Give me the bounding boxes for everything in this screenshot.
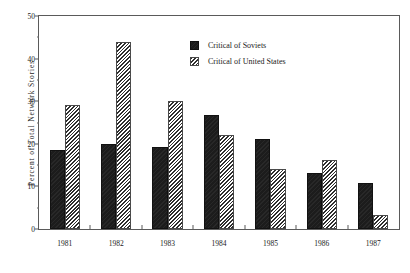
x-tick-mark: [296, 225, 297, 229]
x-tick-label-1987: 1987: [366, 239, 381, 248]
legend-label-united-states: Critical of United States: [208, 57, 286, 66]
bar-united-states-1982: [116, 42, 131, 229]
legend-label-soviets: Critical of Soviets: [208, 41, 266, 50]
legend-item-soviets: Critical of Soviets: [190, 37, 286, 53]
bar-united-states-1984: [219, 135, 234, 229]
y-tick-label: 0: [31, 225, 35, 234]
bar-soviets-1982: [101, 144, 116, 229]
legend-swatch-united-states-icon: [190, 57, 199, 66]
y-tick-major: [35, 186, 39, 187]
bar-soviets-1983: [152, 147, 167, 229]
y-axis-title: Percent of Total Network Stories: [27, 23, 36, 223]
bar-soviets-1984: [204, 115, 219, 229]
x-tick-mark: [141, 225, 142, 229]
y-tick-minor: [37, 37, 40, 38]
bar-chart: Percent of Total Network Stories 0102030…: [0, 0, 410, 273]
y-tick-major: [35, 58, 39, 59]
x-tick-label-1985: 1985: [263, 239, 278, 248]
y-tick-minor: [37, 165, 40, 166]
y-tick-minor: [37, 79, 40, 80]
y-tick-label: 50: [28, 12, 36, 21]
bar-soviets-1986: [307, 173, 322, 229]
x-tick-label-1981: 1981: [57, 239, 72, 248]
bar-soviets-1987: [358, 183, 373, 229]
bar-united-states-1983: [168, 101, 183, 229]
x-tick-label-1986: 1986: [314, 239, 329, 248]
x-tick-label-1982: 1982: [109, 239, 124, 248]
x-tick-label-1983: 1983: [160, 239, 175, 248]
y-tick-label: 40: [28, 54, 36, 63]
bar-united-states-1987: [373, 215, 388, 229]
x-tick-mark: [347, 225, 348, 229]
y-tick-label: 30: [28, 97, 36, 106]
legend-swatch-soviets-icon: [190, 41, 199, 50]
chart-legend: Critical of Soviets Critical of United S…: [190, 37, 286, 69]
y-tick-major: [35, 229, 39, 230]
x-tick-label-1984: 1984: [212, 239, 227, 248]
x-tick-mark: [244, 225, 245, 229]
legend-item-united-states: Critical of United States: [190, 53, 286, 69]
x-tick-mark: [193, 225, 194, 229]
y-tick-minor: [37, 207, 40, 208]
y-tick-major: [35, 101, 39, 102]
bar-united-states-1986: [322, 160, 337, 229]
y-tick-label: 20: [28, 139, 36, 148]
bar-united-states-1981: [65, 105, 80, 229]
bar-soviets-1981: [50, 150, 65, 229]
bar-united-states-1985: [270, 169, 285, 229]
y-tick-major: [35, 16, 39, 17]
y-tick-label: 10: [28, 182, 36, 191]
x-tick-mark: [90, 225, 91, 229]
y-tick-minor: [37, 122, 40, 123]
y-tick-major: [35, 143, 39, 144]
bar-soviets-1985: [255, 139, 270, 229]
